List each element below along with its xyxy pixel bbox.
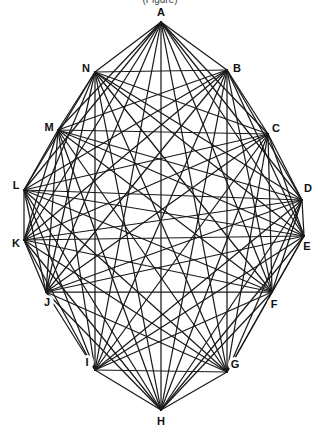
edge-k-m	[24, 130, 58, 240]
node-label-j: J	[44, 296, 50, 308]
edge-e-k	[24, 236, 304, 240]
edge-f-h	[161, 292, 272, 410]
edge-g-h	[161, 372, 227, 410]
edge-c-i	[95, 134, 268, 370]
node-label-h: H	[157, 415, 165, 427]
edge-j-n	[46, 72, 95, 292]
node-label-b: B	[233, 62, 241, 74]
node-label-e: E	[303, 240, 310, 252]
node-label-a: A	[157, 6, 165, 18]
complete-graph-diagram: ABCDEFGHIJKLMN	[0, 0, 320, 432]
edge-a-n	[95, 22, 161, 72]
node-label-c: C	[272, 122, 280, 134]
edge-a-m	[58, 22, 161, 130]
edge-g-j	[46, 292, 227, 372]
edge-f-n	[95, 72, 272, 292]
node-label-l: L	[13, 179, 20, 191]
edges-group	[24, 22, 304, 410]
edge-c-f	[268, 134, 272, 292]
diagram-canvas: (Figure) ABCDEFGHIJKLMN	[0, 0, 320, 432]
edge-b-h	[161, 70, 227, 410]
node-label-d: D	[304, 182, 312, 194]
edge-m-n	[58, 72, 95, 130]
edge-f-l	[24, 190, 272, 292]
edge-c-l	[24, 134, 268, 190]
edge-h-j	[46, 292, 161, 410]
node-label-n: N	[82, 62, 90, 74]
node-label-k: K	[12, 237, 20, 249]
edge-c-m	[58, 130, 268, 134]
node-label-i: I	[85, 356, 88, 368]
edge-i-l	[24, 190, 95, 370]
edge-a-l	[24, 22, 161, 190]
node-label-f: F	[271, 298, 278, 310]
node-label-m: M	[44, 121, 53, 133]
node-label-g: G	[231, 358, 240, 370]
edge-d-l	[24, 190, 302, 200]
edge-c-e	[268, 134, 304, 236]
